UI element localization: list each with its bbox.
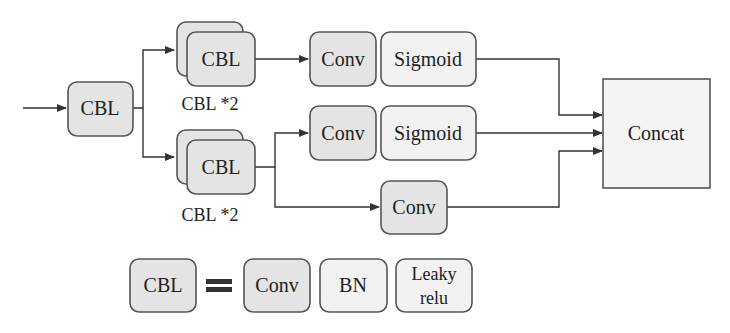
concat-block: Concat bbox=[603, 79, 710, 188]
cbl-top-label: CBL bbox=[202, 48, 241, 70]
legend-cbl-label: CBL bbox=[144, 274, 183, 296]
sigmoid-top-label: Sigmoid bbox=[394, 48, 462, 71]
branch-mid: Conv Sigmoid bbox=[310, 106, 476, 160]
cbl-bottom-repeat-label: CBL *2 bbox=[182, 205, 239, 225]
cbl-top-stack: CBL CBL *2 bbox=[177, 22, 255, 114]
cbl-input-label: CBL bbox=[81, 97, 120, 119]
branch-top: Conv Sigmoid bbox=[310, 32, 476, 86]
branch-bottom: Conv bbox=[381, 181, 447, 234]
cbl-legend: CBL Conv BN Leaky relu bbox=[130, 259, 472, 312]
legend-bn-label: BN bbox=[339, 274, 367, 296]
sigmoid-mid-label: Sigmoid bbox=[394, 122, 462, 145]
conv-top-label: Conv bbox=[321, 48, 364, 70]
cbl-bottom-label: CBL bbox=[202, 156, 241, 178]
legend-conv-label: Conv bbox=[255, 274, 298, 296]
concat-label: Concat bbox=[628, 122, 685, 144]
cbl-top-repeat-label: CBL *2 bbox=[182, 94, 239, 114]
legend-relu-label: relu bbox=[420, 288, 448, 308]
legend-leaky-label: Leaky bbox=[412, 264, 457, 284]
conv-bottom-label: Conv bbox=[392, 196, 435, 218]
cbl-head-diagram: CBL CBL CBL *2 CBL CBL *2 Conv Sigmoid C… bbox=[0, 0, 730, 333]
cbl-bottom-stack: CBL CBL *2 bbox=[177, 130, 255, 225]
conv-mid-label: Conv bbox=[321, 122, 364, 144]
equals-icon bbox=[206, 279, 232, 292]
cbl-input-block: CBL bbox=[68, 82, 133, 136]
